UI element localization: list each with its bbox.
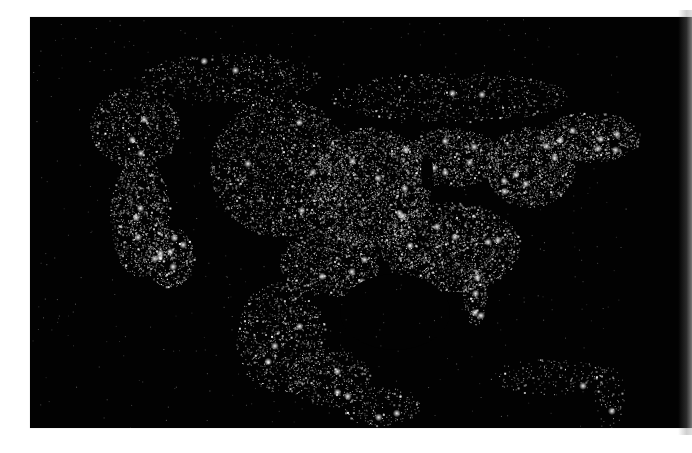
city-lights-canvas — [30, 17, 692, 428]
night-lights-photo: Satellite composite of North America at … — [30, 17, 692, 428]
